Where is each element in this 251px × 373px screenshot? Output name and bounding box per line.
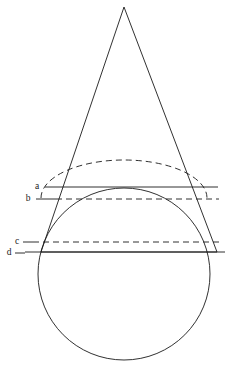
figure-canvas: a b c d bbox=[0, 0, 251, 373]
level-label-c: c bbox=[15, 236, 19, 246]
level-label-b: b bbox=[26, 193, 31, 203]
geometry-figure: a b c d bbox=[0, 0, 251, 373]
level-label-d: d bbox=[7, 247, 12, 257]
